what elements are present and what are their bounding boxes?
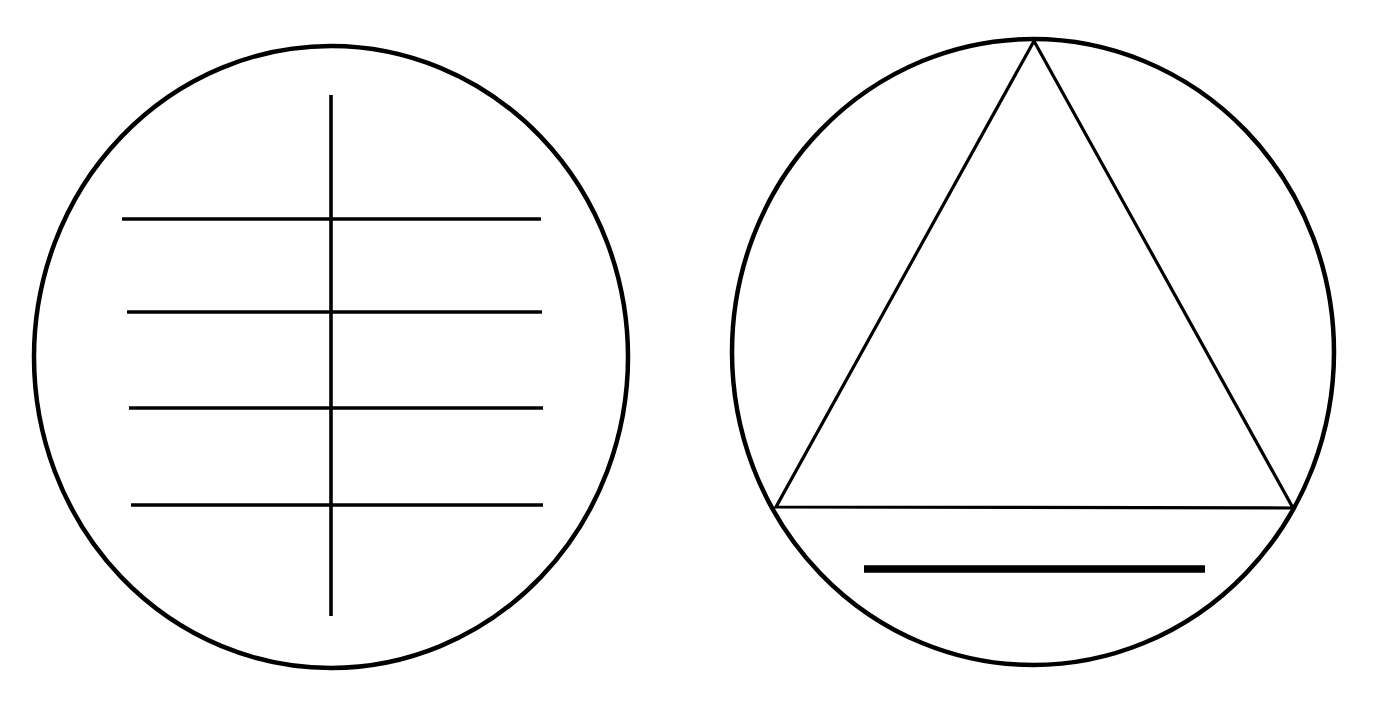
figure-canvas [0,0,1399,713]
figure-page [0,0,1399,713]
inscribed-triangle [776,41,1293,508]
thick-horizontal-bar [864,565,1205,573]
left-figure [34,46,628,668]
right-figure [732,39,1334,665]
